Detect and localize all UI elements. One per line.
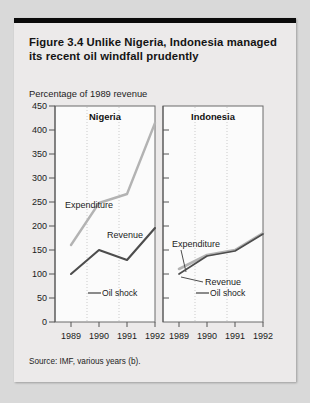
y-tick-400: 400: [32, 125, 47, 135]
x-tick-nigeria-1989: 1989: [61, 331, 81, 341]
y-tick-300: 300: [32, 173, 47, 183]
source-note: Source: IMF, various years (b).: [29, 357, 140, 366]
label-oil-shock-nigeria: Oil shock: [102, 288, 138, 298]
label-nigeria-revenue: Revenue: [107, 230, 143, 240]
y-axis-nigeria: [49, 106, 55, 322]
x-axis-ticks: [71, 322, 263, 327]
x-tick-indonesia-1992: 1992: [253, 331, 273, 341]
panel-title-nigeria: Nigeria: [89, 111, 122, 122]
y-tick-0: 0: [42, 317, 47, 327]
x-tick-nigeria-1991: 1991: [117, 331, 137, 341]
label-oil-shock-indonesia: Oil shock: [210, 288, 246, 298]
chart-plot-area: 450 400 350 300 250 200 150 100 50 0: [29, 102, 284, 344]
panel-title-indonesia: Indonesia: [191, 111, 236, 122]
label-indonesia-revenue: Revenue: [205, 277, 241, 287]
chart-svg: 450 400 350 300 250 200 150 100 50 0: [29, 102, 284, 344]
y-tick-350: 350: [32, 149, 47, 159]
y-axis-tick-labels: 450 400 350 300 250 200 150 100 50 0: [32, 102, 47, 327]
figure-card: Figure 3.4 Unlike Nigeria, Indonesia man…: [14, 18, 296, 382]
x-tick-nigeria-1992: 1992: [145, 331, 165, 341]
x-tick-nigeria-1990: 1990: [89, 331, 109, 341]
y-tick-200: 200: [32, 221, 47, 231]
top-rule-divider: [14, 18, 296, 23]
y-tick-50: 50: [37, 293, 47, 303]
y-axis-caption: Percentage of 1989 revenue: [29, 88, 147, 99]
x-axis-tick-labels: 1989 1990 1991 1992 1989 1990 1991 1992: [61, 331, 273, 341]
x-tick-indonesia-1991: 1991: [225, 331, 245, 341]
y-tick-450: 450: [32, 102, 47, 111]
figure-title: Figure 3.4 Unlike Nigeria, Indonesia man…: [29, 35, 284, 63]
x-tick-indonesia-1989: 1989: [169, 331, 189, 341]
label-nigeria-expenditure: Expenditure: [65, 200, 113, 210]
y-tick-100: 100: [32, 269, 47, 279]
x-tick-indonesia-1990: 1990: [197, 331, 217, 341]
y-tick-150: 150: [32, 245, 47, 255]
y-tick-250: 250: [32, 197, 47, 207]
label-indonesia-expenditure: Expenditure: [172, 239, 220, 249]
